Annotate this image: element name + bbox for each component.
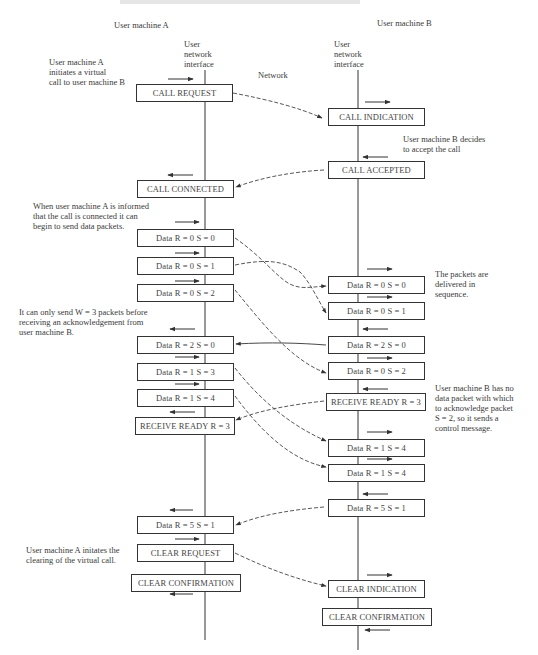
b-clear-confirmation-box: CLEAR CONFIRMATION [322, 608, 432, 626]
a-data-r0-s0-box: Data R = 0 S = 0 [137, 229, 234, 247]
a-data-r1-s4-box: Data R = 1 S = 4 [137, 389, 234, 407]
b-data-r1-s4-second-box: Data R = 1 S = 4 [328, 464, 425, 482]
a-receive-ready-r3-box: RECEIVE READY R = 3 [135, 417, 235, 435]
call-connected-box: CALL CONNECTED [137, 180, 234, 198]
b-data-r5-s1-box: Data R = 5 S = 1 [328, 499, 425, 517]
clear-request-box: CLEAR REQUEST [137, 544, 234, 562]
call-request-box: CALL REQUEST [136, 84, 233, 102]
b-data-r0-s1-box: Data R = 0 S = 1 [328, 302, 425, 320]
a-data-r1-s3-box: Data R = 1 S = 3 [137, 363, 234, 381]
b-data-r1-s4-first-box: Data R = 1 S = 4 [328, 439, 425, 457]
b-data-r2-s0-box: Data R = 2 S = 0 [328, 336, 425, 354]
call-indication-box: CALL INDICATION [328, 108, 425, 126]
b-data-r0-s2-box: Data R = 0 S = 2 [328, 362, 425, 380]
a-clear-confirmation-box: CLEAR CONFIRMATION [131, 574, 241, 592]
a-data-r5-s1-box: Data R = 5 S = 1 [137, 516, 234, 534]
call-accepted-box: CALL ACCEPTED [328, 161, 425, 179]
a-data-r0-s2-box: Data R = 0 S = 2 [137, 284, 234, 302]
clear-indication-box: CLEAR INDICATION [328, 580, 425, 598]
a-data-r2-s0-box: Data R = 2 S = 0 [137, 336, 234, 354]
b-data-r0-s0-box: Data R = 0 S = 0 [328, 276, 425, 294]
b-receive-ready-r3-box: RECEIVE READY R = 3 [326, 393, 426, 411]
sequence-wires [0, 0, 538, 655]
a-data-r0-s1-box: Data R = 0 S = 1 [137, 257, 234, 275]
